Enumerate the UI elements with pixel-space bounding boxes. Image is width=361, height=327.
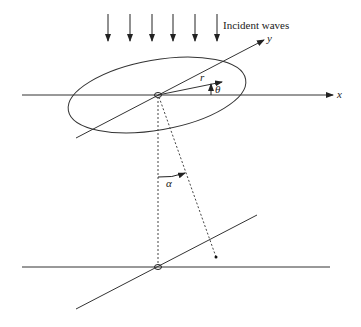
field-point [215, 256, 218, 259]
lower-oblique-line [76, 215, 257, 309]
theta-label: θ [215, 83, 221, 95]
r-vector [158, 82, 222, 95]
incident-waves-label: Incident waves [223, 19, 289, 31]
y-axis [76, 40, 264, 138]
r-label: r [200, 71, 205, 83]
wave-diagram: Incident waves x y r θ α [0, 0, 361, 327]
x-axis-label: x [336, 88, 342, 100]
incident-wave-arrows [108, 14, 217, 41]
alpha-label: α [166, 177, 172, 189]
y-axis-label: y [266, 32, 272, 44]
